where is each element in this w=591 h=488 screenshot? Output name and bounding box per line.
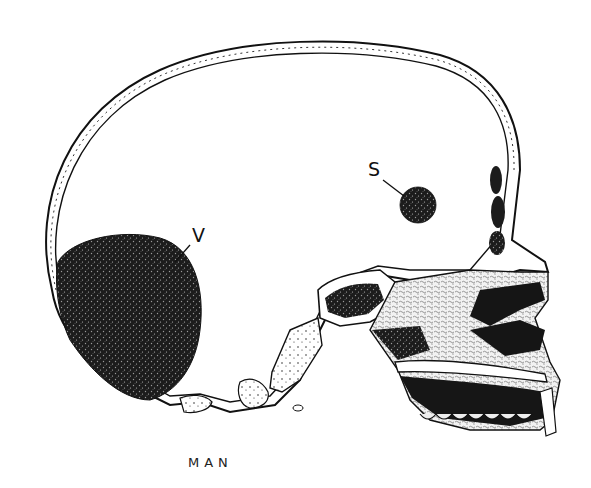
label-s: S (368, 160, 380, 179)
facial-skeleton (370, 270, 560, 436)
label-v: V (192, 226, 205, 245)
region-v (57, 234, 202, 400)
skull-section-illustration (0, 0, 591, 488)
figure-caption: MAN (188, 455, 233, 470)
